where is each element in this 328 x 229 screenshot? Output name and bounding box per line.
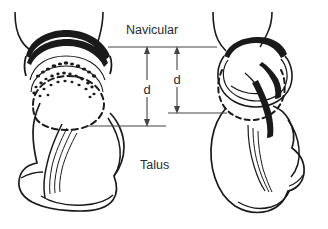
navicular-label: Navicular (126, 23, 178, 37)
anatomical-figure: d d Navicular Talus (0, 0, 328, 229)
left-dimension-label: d (143, 82, 150, 97)
talus-label: Talus (140, 158, 169, 172)
figure-canvas: d d Navicular Talus (0, 0, 328, 229)
right-dimension-label: d (173, 72, 180, 87)
